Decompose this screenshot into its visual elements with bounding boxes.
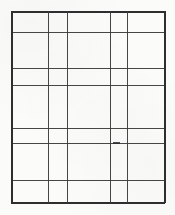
table-cell[interactable] [68, 129, 110, 143]
scanned-page [0, 0, 175, 215]
table-cell[interactable] [111, 69, 127, 85]
table-cell[interactable] [49, 129, 67, 143]
table-cell[interactable] [49, 181, 67, 201]
table-cell[interactable] [68, 33, 110, 68]
table-cell[interactable] [128, 33, 163, 68]
table-cell[interactable] [128, 12, 163, 32]
table-cell[interactable] [12, 129, 48, 143]
table-cell[interactable] [12, 33, 48, 68]
table-cell[interactable] [68, 12, 110, 32]
table-cell[interactable] [111, 86, 127, 128]
table-cell[interactable] [111, 12, 127, 32]
table-cell[interactable] [12, 144, 48, 180]
table-cell[interactable] [111, 144, 127, 180]
table-grid [0, 0, 175, 215]
table-cell[interactable] [68, 144, 110, 180]
table-cell[interactable] [128, 129, 163, 143]
table-cell[interactable] [111, 33, 127, 68]
table-cell[interactable] [128, 144, 163, 180]
table-cell[interactable] [68, 86, 110, 128]
table-cell[interactable] [12, 12, 48, 32]
table-cell[interactable] [49, 144, 67, 180]
table-cell[interactable] [12, 181, 48, 201]
table-cell[interactable] [111, 181, 127, 201]
grid-line-vertical-right [164, 11, 166, 203]
table-cell[interactable] [12, 69, 48, 85]
table-cell[interactable] [12, 86, 48, 128]
table-cell[interactable] [68, 181, 110, 201]
table-cell[interactable] [128, 69, 163, 85]
table-cell[interactable] [128, 181, 163, 201]
table-cell[interactable] [49, 33, 67, 68]
table-cell[interactable] [49, 86, 67, 128]
table-cell[interactable] [49, 69, 67, 85]
grid-line-horizontal-bottom [11, 202, 165, 204]
table-cell[interactable] [111, 129, 127, 143]
table-cell[interactable] [68, 69, 110, 85]
table-cell[interactable] [128, 86, 163, 128]
scan-artifact-blot [113, 142, 120, 144]
table-cell[interactable] [49, 12, 67, 32]
